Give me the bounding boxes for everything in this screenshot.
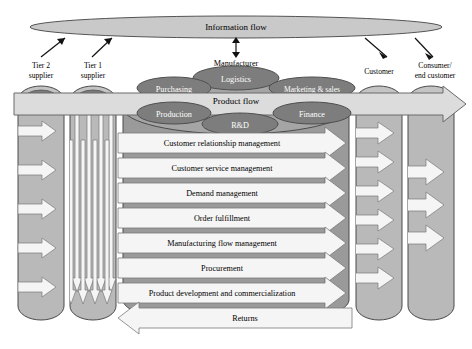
connector-customer [365,38,387,59]
entity-label-tier1-line2: supplier [81,71,106,80]
entity-label-consumer-line1: Consumer/ [418,61,452,70]
process-label-csm: Customer service management [172,164,274,173]
entity-label-customer: Customer [364,67,394,76]
process-label-order: Order fulfillment [194,214,251,223]
function-label-production: Production [156,110,192,119]
function-label-finance: Finance [299,110,325,119]
function-production[interactable]: Production [137,102,211,124]
process-label-demand: Demand management [186,189,258,198]
connector-tier2 [41,38,65,57]
connector-manufacturer [232,37,240,58]
entity-label-tier1-line1: Tier 1 [84,61,102,70]
entity-label-tier2-line1: Tier 2 [32,61,50,70]
entity-label-tier2-line2: supplier [29,71,54,80]
function-label-rd: R&D [231,121,249,130]
scm-framework-diagram: Information flow Tier 2 supplier Tier 1 [0,0,472,349]
process-label-mfg-flow: Manufacturing flow management [167,239,277,248]
process-label-returns: Returns [232,314,257,323]
function-finance[interactable]: Finance [273,102,351,124]
connector-tier1 [92,38,112,57]
function-label-logistics: Logistics [221,75,251,84]
entity-label-consumer-line2: end customer [415,71,456,80]
process-label-crm: Customer relationship management [164,139,281,148]
function-label-marketing-sales: Marketing & sales [284,85,340,94]
information-flow-band: Information flow [30,16,442,38]
function-rd[interactable]: R&D [202,113,278,135]
diagram-canvas: Information flow Tier 2 supplier Tier 1 [0,0,472,349]
process-label-pdc: Product development and commercializatio… [149,289,296,298]
product-flow-label: Product flow [213,96,260,106]
consumer-flow-arrows [404,159,444,251]
process-label-procurement: Procurement [201,264,244,273]
information-flow-connectors [41,37,433,60]
connector-consumer [415,38,433,60]
information-flow-label: Information flow [205,22,267,32]
function-label-purchasing: Purchasing [156,85,192,94]
